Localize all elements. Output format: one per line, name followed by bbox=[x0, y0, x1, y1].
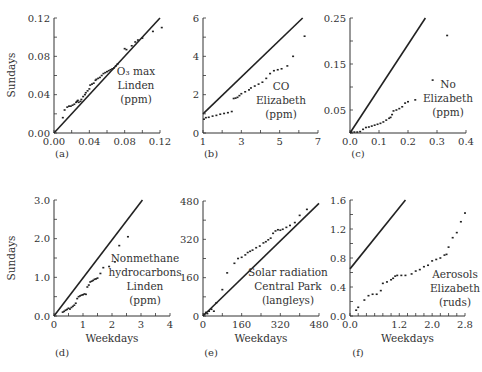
panel-label: (a) bbox=[55, 148, 69, 159]
y-tick-label: 320 bbox=[180, 234, 199, 245]
y-tick-label: 1.6 bbox=[330, 195, 346, 206]
panel-annotation: Solar radiation bbox=[248, 266, 328, 278]
x-axis-title: Weekdays bbox=[381, 332, 434, 344]
y-tick-label: 3.0 bbox=[34, 195, 50, 206]
data-points bbox=[350, 35, 448, 133]
panel-d: 012340.01.02.03.0NonmethanehydrocarbonsL… bbox=[5, 195, 182, 359]
x-tick-label: 3 bbox=[138, 319, 144, 330]
panel-a: 0.000.040.080.120.000.040.080.12O₃ maxLi… bbox=[5, 13, 171, 160]
x-tick-label: 3 bbox=[238, 136, 244, 147]
x-tick-label: 0.0 bbox=[342, 136, 358, 147]
panel-annotation: (ppm) bbox=[265, 108, 297, 120]
y-tick-label: 0.25 bbox=[324, 13, 346, 24]
x-tick-label: 1.2 bbox=[391, 319, 407, 330]
panel-label: (f) bbox=[352, 347, 364, 358]
x-tick-label: 160 bbox=[232, 319, 251, 330]
y-tick-label: 2 bbox=[193, 89, 199, 100]
panel-annotation: (ppm) bbox=[120, 93, 152, 105]
x-tick-label: 2 bbox=[109, 319, 115, 330]
y-tick-label: 0.0 bbox=[34, 311, 50, 322]
x-tick-label: 480 bbox=[309, 319, 328, 330]
y-tick-label: 0.05 bbox=[324, 105, 346, 116]
panel-annotation: Central Park bbox=[254, 280, 322, 292]
panel-annotation: (ppm) bbox=[129, 294, 161, 306]
panel-annotation: Aerosols bbox=[431, 268, 478, 280]
panel-label: (c) bbox=[351, 148, 365, 159]
panel-label: (e) bbox=[204, 347, 218, 358]
x-tick-label: 2.0 bbox=[424, 319, 440, 330]
x-tick-label: 0 bbox=[200, 319, 206, 330]
y-axis-title: Sundays bbox=[5, 235, 17, 280]
y-tick-label: 0.00 bbox=[28, 128, 50, 139]
panel-annotation: (ruds) bbox=[439, 296, 471, 308]
x-tick-label: 1 bbox=[80, 319, 86, 330]
x-tick-label: 0.04 bbox=[78, 136, 100, 147]
panel-annotation: CO bbox=[273, 80, 290, 92]
x-axis-title: Weekdays bbox=[234, 332, 287, 344]
y-tick-label: 6 bbox=[193, 13, 199, 24]
y-tick-label: 0 bbox=[193, 128, 199, 139]
y-tick-label: 4 bbox=[193, 51, 199, 62]
reference-line bbox=[350, 200, 405, 269]
panel-annotation: Elizabeth bbox=[256, 94, 306, 106]
x-axis-title: Weekdays bbox=[85, 332, 138, 344]
panel-annotation: hydrocarbons bbox=[108, 266, 181, 278]
x-tick-label: 7 bbox=[315, 136, 321, 147]
reference-line bbox=[350, 18, 425, 133]
y-tick-label: 2.0 bbox=[34, 233, 50, 244]
y-tick-label: 480 bbox=[180, 196, 199, 207]
x-tick-label: 0.12 bbox=[149, 136, 171, 147]
panel-b: 13570246COElizabeth(ppm)(b) bbox=[193, 13, 322, 160]
y-tick-label: 0.08 bbox=[28, 51, 50, 62]
panel-annotation: Nonmethane bbox=[111, 252, 180, 264]
x-tick-label: 0.2 bbox=[400, 136, 416, 147]
panel-annotation: Elizabeth bbox=[423, 92, 473, 104]
x-tick-label: 0.08 bbox=[114, 136, 136, 147]
y-tick-label: 1.2 bbox=[330, 224, 346, 235]
x-tick-label: 320 bbox=[271, 319, 290, 330]
y-tick-label: 0.8 bbox=[330, 253, 346, 264]
y-tick-label: 0.04 bbox=[28, 89, 50, 100]
x-tick-label: 2.8 bbox=[457, 319, 473, 330]
x-tick-label: 4 bbox=[167, 319, 173, 330]
x-tick-label: 1 bbox=[200, 136, 206, 147]
panel-label: (d) bbox=[55, 347, 69, 358]
y-tick-label: 1.0 bbox=[34, 272, 50, 283]
panel-e: 01603204800160320480Solar radiationCentr… bbox=[180, 196, 329, 359]
y-tick-label: 0 bbox=[193, 311, 199, 322]
x-tick-label: 0.1 bbox=[371, 136, 387, 147]
panel-annotation: Linden bbox=[127, 280, 164, 292]
x-tick-label: 0.4 bbox=[458, 136, 474, 147]
panel-f: 0.01.22.02.80.00.40.81.21.6AerosolsEliza… bbox=[330, 195, 480, 359]
panel-annotation: O₃ max bbox=[117, 65, 155, 77]
y-tick-label: 160 bbox=[180, 272, 199, 283]
panel-annotation: (ppm) bbox=[432, 106, 464, 118]
qq-plot-figure: 0.000.040.080.120.000.040.080.12O₃ maxLi… bbox=[0, 0, 482, 372]
panel-c: 0.00.10.20.30.40.050.150.25NoElizabeth(p… bbox=[324, 13, 474, 160]
x-tick-label: 0 bbox=[51, 319, 57, 330]
panel-label: (b) bbox=[204, 148, 218, 159]
panel-annotation: (langleys) bbox=[262, 294, 314, 306]
x-tick-label: 5 bbox=[276, 136, 282, 147]
y-axis-title: Sundays bbox=[5, 52, 17, 97]
y-tick-label: 0.0 bbox=[330, 311, 346, 322]
y-tick-label: 0.12 bbox=[28, 13, 50, 24]
y-tick-label: 0.4 bbox=[330, 282, 346, 293]
y-tick-label: 0.15 bbox=[324, 59, 346, 70]
panel-annotation: No bbox=[440, 78, 456, 90]
panel-annotation: Elizabeth bbox=[430, 282, 480, 294]
panel-annotation: Linden bbox=[118, 79, 155, 91]
x-tick-label: 0.3 bbox=[429, 136, 445, 147]
